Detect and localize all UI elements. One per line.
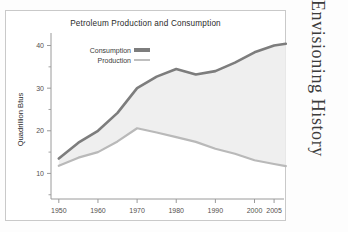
svg-text:10: 10 bbox=[36, 170, 44, 177]
figure-panel: Petroleum Production and Consumption Qua… bbox=[5, 10, 286, 221]
svg-text:1970: 1970 bbox=[129, 207, 145, 214]
legend-swatch-consumption bbox=[134, 48, 150, 51]
legend-swatch-production bbox=[134, 59, 150, 62]
book-side-title: Envisioning History bbox=[298, 0, 338, 232]
svg-text:2005: 2005 bbox=[266, 207, 282, 214]
svg-text:40: 40 bbox=[36, 42, 44, 49]
svg-text:1980: 1980 bbox=[168, 207, 184, 214]
chart-plot-area: 102030401950196019701980199020002005 bbox=[6, 11, 287, 222]
svg-text:1990: 1990 bbox=[208, 207, 224, 214]
svg-text:2000: 2000 bbox=[247, 207, 263, 214]
legend-item-production: Production bbox=[58, 55, 150, 65]
svg-text:20: 20 bbox=[36, 127, 44, 134]
svg-text:1960: 1960 bbox=[90, 207, 106, 214]
legend-label-consumption: Consumption bbox=[90, 47, 131, 54]
legend-item-consumption: Consumption bbox=[58, 45, 150, 55]
legend-label-production: Production bbox=[98, 57, 131, 64]
chart-legend: Consumption Production bbox=[58, 45, 150, 65]
svg-text:30: 30 bbox=[36, 85, 44, 92]
svg-text:1950: 1950 bbox=[51, 207, 67, 214]
